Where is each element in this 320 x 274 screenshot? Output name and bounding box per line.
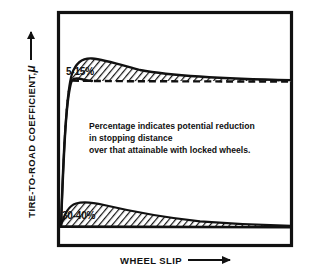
mu-symbol: μ [24,65,38,72]
upper-band-label: 5-15% [66,66,94,77]
y-axis-label-text: TIRE-TO-ROAD COEFFICIENT, [26,72,37,217]
lower-band-fill [61,202,291,227]
annotation-line-3: over that attainable with locked wheels. [89,144,255,156]
x-axis-label: WHEEL SLIP [57,255,293,266]
y-axis-arrow-icon [30,32,32,60]
annotation-line-2: in stopping distance [89,132,255,144]
lower-band-baseline [60,227,291,228]
x-axis-arrow-icon [188,259,230,261]
annotation-line-1: Percentage indicates potential reduction [89,120,255,132]
annotation-text: Percentage indicates potential reduction… [89,120,255,157]
y-axis-label: TIRE-TO-ROAD COEFFICIENT,μ [24,20,38,230]
lower-band-label: 30-40% [62,210,95,221]
x-axis-label-text: WHEEL SLIP [120,255,182,266]
